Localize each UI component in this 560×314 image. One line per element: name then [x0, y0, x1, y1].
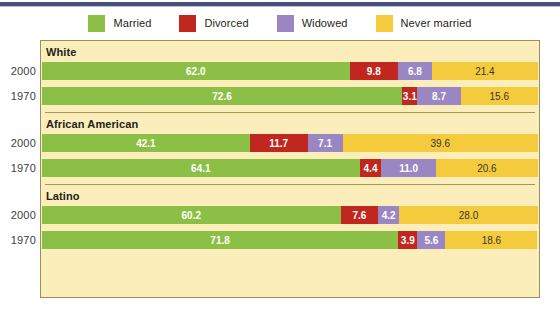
year-label: 2000 — [0, 65, 36, 77]
chart-group: Latino60.27.64.228.071.83.95.618.6 — [41, 184, 539, 249]
bar-row[interactable]: 71.83.95.618.6 — [41, 231, 539, 249]
top-rule — [0, 2, 560, 7]
bar-segment-widowed[interactable]: 7.1 — [308, 134, 343, 152]
chart-legend: MarriedDivorcedWidowedNever married — [0, 12, 560, 34]
bar-track: 62.09.86.821.4 — [42, 62, 538, 80]
legend-item[interactable]: Widowed — [277, 15, 348, 32]
bar-track: 64.14.411.020.6 — [42, 159, 538, 177]
bar-segment-widowed[interactable]: 5.6 — [417, 231, 445, 249]
bar-segment-married[interactable]: 42.1 — [42, 134, 250, 152]
bar-segment-married[interactable]: 64.1 — [42, 159, 360, 177]
legend-swatch — [179, 15, 196, 32]
bar-row[interactable]: 60.27.64.228.0 — [41, 206, 539, 224]
year-label: 1970 — [0, 90, 36, 102]
bar-track: 60.27.64.228.0 — [42, 206, 538, 224]
legend-item[interactable]: Never married — [376, 15, 472, 32]
bar-segment-divorced[interactable]: 9.8 — [350, 62, 399, 80]
legend-item[interactable]: Married — [88, 15, 151, 32]
bar-segment-never-married[interactable]: 20.6 — [436, 159, 538, 177]
bar-segment-divorced[interactable]: 3.1 — [402, 87, 417, 105]
bar-segment-divorced[interactable]: 11.7 — [250, 134, 308, 152]
group-title: Latino — [41, 185, 539, 206]
legend-item-label: Widowed — [302, 17, 348, 29]
bar-segment-married[interactable]: 72.6 — [42, 87, 402, 105]
bar-track: 71.83.95.618.6 — [42, 231, 538, 249]
bar-track: 42.111.77.139.6 — [42, 134, 538, 152]
bar-segment-widowed[interactable]: 11.0 — [381, 159, 436, 177]
year-label: 1970 — [0, 162, 36, 174]
chart-area: White62.09.86.821.472.63.18.715.6African… — [0, 38, 560, 300]
bar-segment-never-married[interactable]: 18.6 — [445, 231, 537, 249]
bar-row[interactable]: 42.111.77.139.6 — [41, 134, 539, 152]
legend-item-label: Married — [113, 17, 151, 29]
chart-group: African American42.111.77.139.664.14.411… — [41, 112, 539, 177]
bar-segment-never-married[interactable]: 15.6 — [461, 87, 538, 105]
year-label: 2000 — [0, 209, 36, 221]
legend-swatch — [88, 15, 105, 32]
bar-segment-married[interactable]: 62.0 — [42, 62, 350, 80]
group-title: African American — [41, 113, 539, 134]
group-title: White — [41, 41, 539, 62]
year-label: 1970 — [0, 234, 36, 246]
bar-row[interactable]: 62.09.86.821.4 — [41, 62, 539, 80]
bar-row[interactable]: 72.63.18.715.6 — [41, 87, 539, 105]
bar-segment-widowed[interactable]: 4.2 — [378, 206, 399, 224]
year-label: 2000 — [0, 137, 36, 149]
legend-swatch — [376, 15, 393, 32]
bar-segment-married[interactable]: 60.2 — [42, 206, 341, 224]
bar-segment-never-married[interactable]: 28.0 — [399, 206, 538, 224]
bar-segment-married[interactable]: 71.8 — [42, 231, 398, 249]
chart-panel: White62.09.86.821.472.63.18.715.6African… — [40, 40, 540, 298]
legend-item-label: Divorced — [204, 17, 248, 29]
chart-group: White62.09.86.821.472.63.18.715.6 — [41, 41, 539, 105]
bar-segment-widowed[interactable]: 8.7 — [417, 87, 460, 105]
bar-row[interactable]: 64.14.411.020.6 — [41, 159, 539, 177]
bar-track: 72.63.18.715.6 — [42, 87, 538, 105]
bar-segment-divorced[interactable]: 3.9 — [398, 231, 417, 249]
legend-swatch — [277, 15, 294, 32]
bar-segment-never-married[interactable]: 21.4 — [432, 62, 538, 80]
legend-item[interactable]: Divorced — [179, 15, 248, 32]
bar-segment-divorced[interactable]: 7.6 — [341, 206, 379, 224]
bar-segment-widowed[interactable]: 6.8 — [398, 62, 432, 80]
bar-segment-divorced[interactable]: 4.4 — [360, 159, 382, 177]
bar-segment-never-married[interactable]: 39.6 — [343, 134, 538, 152]
legend-item-label: Never married — [401, 17, 472, 29]
